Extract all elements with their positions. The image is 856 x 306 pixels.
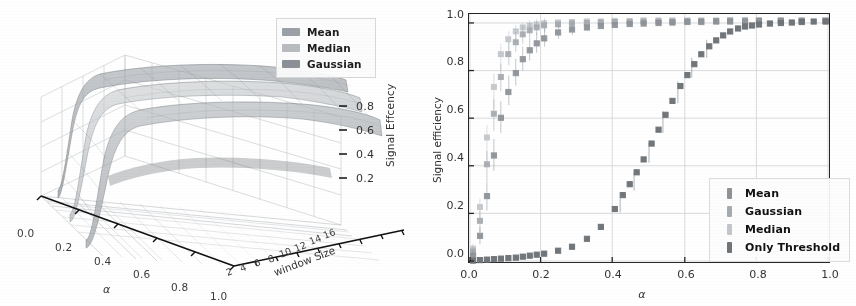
x-tick-5: 1.0	[210, 290, 227, 302]
x2d-tick-1: 0.2	[524, 268, 558, 281]
figure-canvas: 0.0 0.2 0.4 0.6 0.8 1.0 α 2 4 6 8 10 12 …	[0, 0, 856, 306]
legend-3d-label-gaussian: Gaussian	[307, 58, 362, 70]
axes3d-stage: 0.0 0.2 0.4 0.6 0.8 1.0 α 2 4 6 8 10 12 …	[0, 0, 428, 306]
legend-swatch-mean	[282, 28, 300, 36]
y2d-tick-1: 0.8	[434, 55, 464, 68]
axis2d-x-title: α	[428, 288, 856, 301]
legend-3d-label-mean: Mean	[307, 26, 340, 38]
x2d-tick-4: 0.8	[741, 268, 775, 281]
plot-area-2d: Mean Gaussian Median Only Threshold	[468, 13, 830, 263]
legend-swatch-median	[282, 44, 300, 52]
z-tick-1: 0.6	[356, 124, 374, 137]
legend-3d-item-gaussian[interactable]: Gaussian	[282, 56, 369, 72]
legend-3d-item-mean[interactable]: Mean	[282, 24, 369, 40]
legend-3d[interactable]: Mean Median Gaussian	[276, 18, 376, 78]
y2d-tick-5: 0.0	[434, 247, 464, 260]
x2d-tick-0: 0.0	[452, 268, 486, 281]
x-tick-3: 0.6	[133, 268, 150, 280]
chart-3d-surface: 0.0 0.2 0.4 0.6 0.8 1.0 α 2 4 6 8 10 12 …	[0, 0, 428, 306]
legend-marker-only-threshold	[721, 241, 737, 253]
legend-marker-median	[721, 223, 737, 235]
axis3d-z-title: Signal Effcency	[383, 70, 397, 180]
legend-2d-label-gaussian: Gaussian	[745, 205, 802, 218]
legend-marker-gaussian	[721, 205, 737, 217]
legend-2d-item-mean[interactable]: Mean	[714, 184, 845, 202]
legend-2d-label-mean: Mean	[745, 187, 779, 200]
legend-3d-label-median: Median	[307, 42, 351, 54]
x2d-tick-3: 0.6	[669, 268, 703, 281]
z-tick-2: 0.4	[356, 148, 374, 161]
x-tick-4: 0.8	[171, 281, 188, 293]
z-tick-3: 0.2	[356, 172, 374, 185]
x-tick-1: 0.2	[55, 241, 72, 253]
legend-2d[interactable]: Mean Gaussian Median Only Threshold	[709, 178, 850, 262]
z-tick-0: 0.8	[356, 100, 374, 113]
y2d-tick-0: 1.0	[434, 8, 464, 21]
legend-2d-item-gaussian[interactable]: Gaussian	[714, 202, 845, 220]
legend-2d-label-only-threshold: Only Threshold	[745, 241, 840, 254]
chart-2d-efficiency: 1.0 0.8 0.6 0.4 0.2 0.0 Signal efficienc…	[428, 0, 856, 306]
legend-2d-item-median[interactable]: Median	[714, 220, 845, 238]
axis2d-y-title: Signal efficiency	[430, 75, 444, 205]
x2d-tick-2: 0.4	[596, 268, 630, 281]
legend-3d-item-median[interactable]: Median	[282, 40, 369, 56]
x2d-tick-5: 1.0	[813, 268, 847, 281]
legend-2d-item-only-threshold[interactable]: Only Threshold	[714, 238, 845, 256]
legend-swatch-gaussian	[282, 60, 300, 68]
x-tick-2: 0.4	[94, 255, 111, 267]
legend-marker-mean	[721, 187, 737, 199]
x-tick-0: 0.0	[17, 227, 34, 239]
legend-2d-label-median: Median	[745, 223, 791, 236]
axis3d-x-title: α	[103, 283, 110, 296]
